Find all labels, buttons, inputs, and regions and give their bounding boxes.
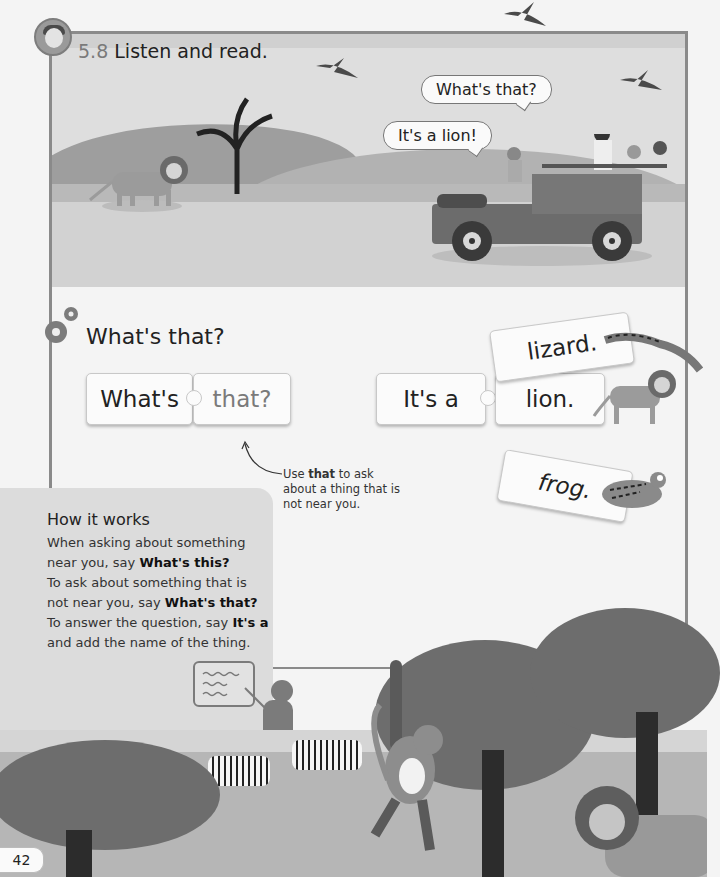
- tree-canopy: [530, 608, 720, 738]
- speech-bubble-question: What's that?: [421, 75, 552, 104]
- lion-icon: [82, 154, 202, 214]
- teacher-body: [263, 700, 293, 730]
- body-bold: What's this?: [139, 555, 229, 570]
- page-number: 42: [0, 847, 44, 873]
- puzzle-piece-whats: What's: [86, 373, 193, 425]
- piece-text: frog.: [536, 469, 593, 504]
- how-it-works-title: How it works: [47, 510, 150, 529]
- piece-text: It's a: [403, 386, 459, 412]
- note-text: Use: [283, 467, 308, 481]
- instruction-text: Listen and read.: [114, 40, 268, 62]
- audio-track-avatar[interactable]: [34, 18, 72, 56]
- puzzle-piece-that: that?: [193, 373, 291, 425]
- bush-tree: [0, 740, 220, 850]
- how-it-works-body: When asking about something near you, sa…: [47, 533, 272, 653]
- note-bold: that: [308, 467, 335, 481]
- teacher-icon: [271, 680, 293, 702]
- body-bold: It's a: [232, 615, 268, 630]
- lion-icon: [565, 780, 707, 877]
- acacia-tree-icon: [192, 94, 282, 194]
- usage-note: Use that to ask about a thing that is no…: [283, 467, 403, 512]
- puzzle-knob: [480, 390, 496, 406]
- piece-text: lion.: [526, 386, 575, 412]
- body-bold: What's that?: [165, 595, 258, 610]
- puzzle-knob: [186, 390, 202, 406]
- zebra-icon: [292, 740, 362, 770]
- bird-icon: [618, 70, 664, 94]
- tree-trunk: [66, 830, 92, 877]
- gears-icon: [40, 302, 86, 348]
- grammar-title: What's that?: [86, 324, 225, 349]
- track-number: 5.8: [78, 40, 108, 62]
- lion-icon: [590, 366, 680, 430]
- section-title: 5.8 Listen and read.: [78, 40, 268, 62]
- tree-trunk: [482, 750, 504, 877]
- puzzle-piece-its-a: It's a: [376, 373, 486, 425]
- body-text: To answer the question, say: [47, 615, 232, 630]
- puzzle-piece-lion: lion.: [495, 373, 605, 425]
- safari-scene-illustration: [52, 34, 685, 287]
- zebra-icon: [208, 756, 270, 786]
- body-text: and add the name of the thing.: [47, 635, 250, 650]
- piece-text: lizard.: [526, 329, 599, 364]
- speech-bubble-answer: It's a lion!: [383, 121, 492, 150]
- safari-jeep-icon: [412, 134, 672, 274]
- bird-icon: [314, 58, 360, 82]
- frog-icon: [596, 462, 671, 514]
- piece-text: that?: [213, 386, 272, 412]
- monkey-icon: [360, 660, 470, 870]
- child-face-icon: [45, 28, 63, 48]
- piece-text: What's: [100, 386, 179, 412]
- bird-icon: [502, 0, 548, 30]
